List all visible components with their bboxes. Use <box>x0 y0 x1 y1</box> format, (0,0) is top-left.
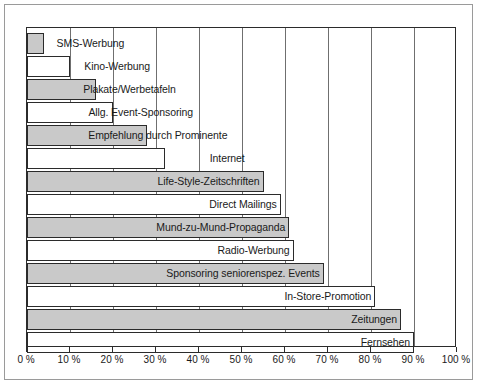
axis-tick-label: 80 % <box>359 354 382 365</box>
axis-tick-label: 20 % <box>101 354 124 365</box>
bar-label: Zeitungen <box>351 309 401 330</box>
bar-label: Sponsoring seniorenspez. Events <box>166 263 323 284</box>
bar-row: Allg. Event-Sponsoring <box>27 102 457 123</box>
axis-tick <box>456 347 457 352</box>
bar <box>27 33 44 54</box>
bar-row: Direct Mailings <box>27 194 457 215</box>
bar-row: Internet <box>27 148 457 169</box>
axis-tick <box>284 347 285 352</box>
axis-tick-label: 40 % <box>187 354 210 365</box>
bar-label: SMS-Werbung <box>57 33 129 54</box>
axis-tick <box>198 347 199 352</box>
bar-label: Mund-zu-Mund-Propaganda <box>156 217 289 238</box>
bar-label: In-Store-Promotion <box>284 286 375 307</box>
x-axis-tick-labels: 0 %10 %20 %30 %40 %50 %60 %70 %80 %90 %1… <box>5 354 479 368</box>
axis-tick <box>370 347 371 352</box>
axis-tick-label: 70 % <box>316 354 339 365</box>
axis-tick-label: 90 % <box>402 354 425 365</box>
bar-label: Direct Mailings <box>209 194 280 215</box>
axis-tick-label: 10 % <box>58 354 81 365</box>
chart-figure: SMS-WerbungKino-WerbungPlakate/Werbetafe… <box>0 0 479 390</box>
axis-tick <box>413 347 414 352</box>
bar-row: In-Store-Promotion <box>27 286 457 307</box>
bar-row: SMS-Werbung <box>27 33 457 54</box>
bar-row: Plakate/Werbetafeln <box>27 79 457 100</box>
bar-label: Life-Style-Zeitschriften <box>157 171 263 192</box>
bar <box>27 148 165 169</box>
axis-tick-label: 100 % <box>442 354 470 365</box>
bar-row: Sponsoring seniorenspez. Events <box>27 263 457 284</box>
plot-area: SMS-WerbungKino-WerbungPlakate/Werbetafe… <box>26 27 456 347</box>
axis-tick <box>26 347 27 352</box>
bar-label: Internet <box>210 148 249 169</box>
axis-tick-label: 50 % <box>230 354 253 365</box>
bar-row: Kino-Werbung <box>27 56 457 77</box>
x-axis-ticks <box>26 347 456 353</box>
axis-tick <box>69 347 70 352</box>
bar-label: Allg. Event-Sponsoring <box>88 102 197 123</box>
axis-tick <box>155 347 156 352</box>
bar-row: Mund-zu-Mund-Propaganda <box>27 217 457 238</box>
axis-tick <box>112 347 113 352</box>
axis-tick-label: 30 % <box>144 354 167 365</box>
bar-row: Life-Style-Zeitschriften <box>27 171 457 192</box>
axis-tick <box>241 347 242 352</box>
bar-label: Empfehlung durch Prominente <box>88 125 231 146</box>
bar-series: SMS-WerbungKino-WerbungPlakate/Werbetafe… <box>27 28 455 346</box>
axis-tick-label: 0 % <box>17 354 34 365</box>
bar-row: Zeitungen <box>27 309 457 330</box>
bar-label: Radio-Werbung <box>218 240 294 261</box>
axis-tick <box>327 347 328 352</box>
bar-row: Empfehlung durch Prominente <box>27 125 457 146</box>
bar-label: Kino-Werbung <box>84 56 154 77</box>
bar <box>27 56 70 77</box>
axis-tick-label: 60 % <box>273 354 296 365</box>
figure-frame: SMS-WerbungKino-WerbungPlakate/Werbetafe… <box>4 4 473 380</box>
bar-label: Plakate/Werbetafeln <box>83 79 179 100</box>
bar-row: Radio-Werbung <box>27 240 457 261</box>
bar <box>27 309 401 330</box>
